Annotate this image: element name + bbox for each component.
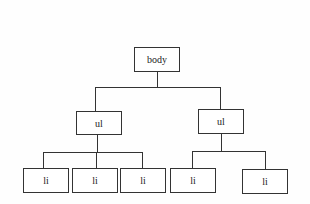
connector-to-li-3 [142, 152, 143, 168]
node-body: body [134, 47, 180, 72]
node-li-3: li [120, 168, 166, 193]
connector-to-li-1 [43, 152, 44, 168]
connector-body-down [157, 71, 158, 88]
connector-to-ul-left [95, 87, 96, 111]
connector-to-li-2 [96, 152, 97, 168]
dom-tree-diagram: body ul ul li li li li li [0, 0, 310, 204]
connector-ul-right-down [221, 133, 222, 152]
node-li-2: li [72, 168, 118, 193]
node-li-5: li [242, 169, 288, 194]
connector-ul-left-down [97, 134, 98, 152]
connector-to-li-5 [265, 151, 266, 169]
connector-ul-left-horizontal [43, 152, 143, 153]
node-li-4: li [170, 168, 216, 193]
connector-to-li-4 [192, 151, 193, 168]
node-ul-left: ul [76, 111, 122, 135]
node-li-1: li [23, 168, 69, 193]
connector-ul-right-horizontal [192, 151, 266, 152]
connector-to-ul-right [220, 87, 221, 109]
connector-body-horizontal [95, 87, 221, 88]
node-ul-right: ul [198, 109, 244, 134]
